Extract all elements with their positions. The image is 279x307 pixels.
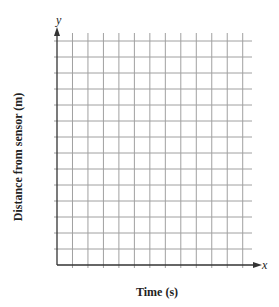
y-axis-label: Distance from sensor (m) [11,93,26,222]
x-axis-arrow-icon [253,262,262,268]
x-axis-label: Time (s) [136,285,178,300]
y-axis-symbol: y [56,13,61,28]
x-axis-symbol: x [262,258,267,273]
y-axis-arrow-icon [54,27,60,36]
blank-graph-grid [0,0,279,307]
